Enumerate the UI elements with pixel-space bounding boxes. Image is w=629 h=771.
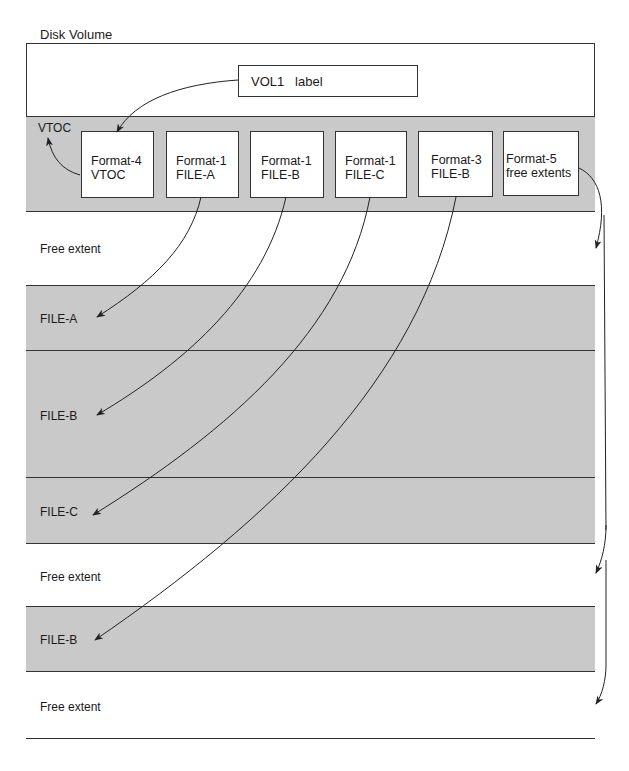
extent-label: FILE-B bbox=[40, 633, 77, 647]
dscb-format4-vtoc: Format-4 VTOC bbox=[81, 131, 154, 198]
dscb-format: Format-1 bbox=[176, 154, 238, 168]
extent-label: Free extent bbox=[40, 700, 101, 714]
dscb-format: Format-4 bbox=[91, 154, 153, 168]
dscb-format1-file-b: Format-1 FILE-B bbox=[250, 131, 324, 198]
arrow-free-2 bbox=[596, 525, 606, 573]
vtoc-label: VTOC bbox=[38, 121, 71, 135]
extent-label: FILE-A bbox=[40, 312, 77, 326]
dscb-format: Format-5 bbox=[506, 152, 578, 166]
arrow-free-connector bbox=[604, 215, 606, 530]
vol1-name: VOL1 bbox=[251, 74, 284, 89]
dscb-target: FILE-B bbox=[431, 167, 492, 181]
dscb-target: VTOC bbox=[91, 168, 153, 182]
dscb-format1-file-c: Format-1 FILE-C bbox=[335, 131, 407, 198]
dscb-format5-free-extents: Format-5 free extents bbox=[503, 131, 579, 196]
extent-row-file-b: FILE-B bbox=[26, 350, 595, 478]
dscb-target: FILE-B bbox=[261, 168, 323, 182]
extent-label: Free extent bbox=[40, 242, 101, 256]
extent-row-free-3: Free extent bbox=[26, 671, 595, 739]
dscb-format: Format-1 bbox=[261, 154, 323, 168]
extent-row-free-2: Free extent bbox=[26, 543, 595, 607]
extent-row-free-1: Free extent bbox=[26, 211, 595, 286]
dscb-format: Format-3 bbox=[431, 153, 492, 167]
dscb-target: free extents bbox=[506, 166, 578, 180]
extent-label: FILE-C bbox=[40, 505, 78, 519]
extent-row-file-c: FILE-C bbox=[26, 477, 595, 544]
extent-row-file-a: FILE-A bbox=[26, 285, 595, 351]
extent-label: FILE-B bbox=[40, 409, 77, 423]
dscb-format: Format-1 bbox=[345, 154, 406, 168]
dscb-target: FILE-C bbox=[345, 168, 406, 182]
arrow-free-3 bbox=[596, 560, 606, 704]
dscb-target: FILE-A bbox=[176, 168, 238, 182]
extent-label: Free extent bbox=[40, 570, 101, 584]
extent-row-file-b-2: FILE-B bbox=[26, 606, 595, 672]
dscb-format3-file-b: Format-3 FILE-B bbox=[418, 131, 493, 197]
vol1-text: label bbox=[295, 74, 322, 89]
dscb-format1-file-a: Format-1 FILE-A bbox=[166, 131, 239, 198]
diagram-title: Disk Volume bbox=[40, 27, 112, 42]
vol1-label-box: VOL1 label bbox=[238, 65, 418, 97]
